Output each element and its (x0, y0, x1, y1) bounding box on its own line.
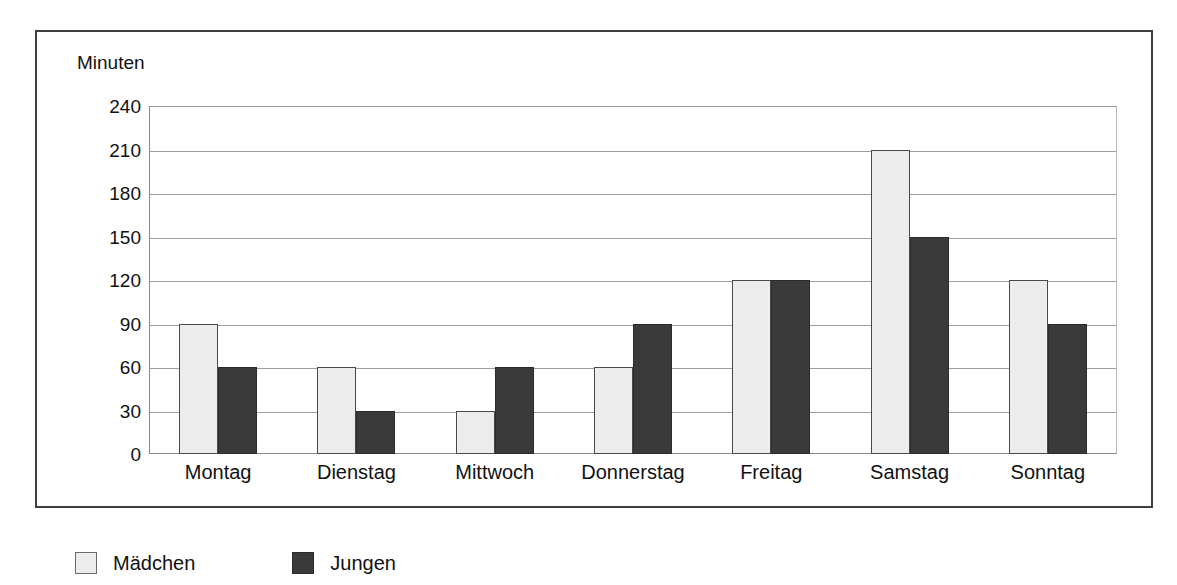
bar-dienstag-jungen (356, 411, 395, 455)
chart-frame: Minuten 2402101801501209060300 MontagDie… (35, 30, 1153, 508)
bar-group (287, 106, 425, 454)
bar-mittwoch-jungen (495, 367, 534, 454)
bar-donnerstag-maedchen (594, 367, 633, 454)
x-axis-tick-label: Dienstag (287, 460, 425, 484)
y-axis-tick-label: 90 (81, 315, 141, 334)
chart-title-clipped-region (0, 0, 1177, 13)
y-axis-unit-label: Minuten (77, 52, 145, 74)
x-axis-tick-label: Mittwoch (426, 460, 564, 484)
bar-group (840, 106, 978, 454)
x-axis-tick-label: Montag (149, 460, 287, 484)
x-axis-tick-label: Freitag (702, 460, 840, 484)
legend-label-jungen: Jungen (330, 552, 396, 574)
legend-label-maedchen: Mädchen (113, 552, 195, 574)
y-axis-tick-label: 120 (81, 271, 141, 290)
legend-swatch-maedchen-icon (75, 552, 97, 574)
bar-dienstag-maedchen (317, 367, 356, 454)
bar-freitag-maedchen (732, 280, 771, 454)
bars-layer (149, 106, 1117, 454)
bar-group (149, 106, 287, 454)
y-axis-tick-label: 150 (81, 228, 141, 247)
bar-montag-jungen (218, 367, 257, 454)
bar-sonntag-maedchen (1009, 280, 1048, 454)
bar-group (979, 106, 1117, 454)
bar-group (564, 106, 702, 454)
x-axis-tick-label: Samstag (840, 460, 978, 484)
y-axis-tick-label: 60 (81, 358, 141, 377)
legend-swatch-jungen-icon (292, 552, 314, 574)
bar-sonntag-jungen (1048, 324, 1087, 455)
legend-item-jungen: Jungen (292, 552, 396, 574)
x-axis-tick-label: Sonntag (979, 460, 1117, 484)
bar-donnerstag-jungen (633, 324, 672, 455)
y-axis-tick-labels: 2402101801501209060300 (73, 106, 141, 454)
x-axis-tick-label: Donnerstag (564, 460, 702, 484)
y-axis-tick-label: 30 (81, 402, 141, 421)
bar-mittwoch-maedchen (456, 411, 495, 455)
bar-samstag-jungen (910, 237, 949, 455)
y-axis-tick-label: 210 (81, 141, 141, 160)
y-axis-tick-label: 180 (81, 184, 141, 203)
y-axis-tick-label: 240 (81, 97, 141, 116)
x-axis-tick-labels: MontagDienstagMittwochDonnerstagFreitagS… (149, 460, 1117, 490)
bar-group (702, 106, 840, 454)
bar-freitag-jungen (771, 280, 810, 454)
chart-legend: Mädchen Jungen (75, 552, 396, 574)
bar-samstag-maedchen (871, 150, 910, 455)
legend-item-maedchen: Mädchen (75, 552, 195, 574)
bar-group (426, 106, 564, 454)
y-axis-tick-label: 0 (81, 445, 141, 464)
bar-montag-maedchen (179, 324, 218, 455)
